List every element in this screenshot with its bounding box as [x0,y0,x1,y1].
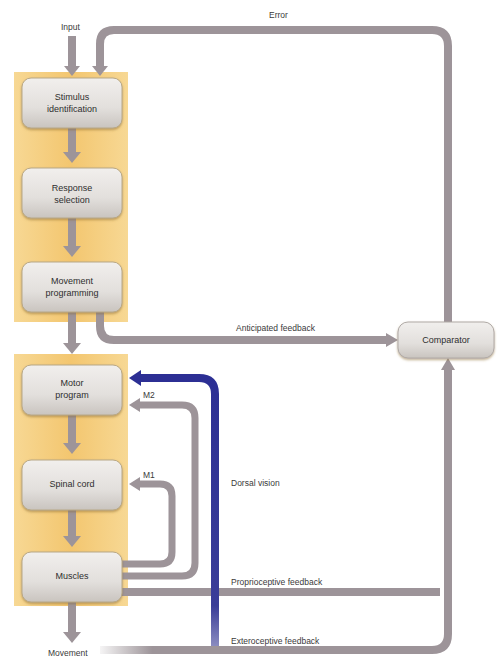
box-label: programming [45,288,98,298]
box-label: Muscles [55,571,89,581]
box-label: selection [54,195,90,205]
m1-arrow [122,477,172,564]
m2-label: M2 [143,390,155,400]
error-arrow [92,30,452,322]
input-label: Input [61,22,81,32]
box-label: Movement [51,276,94,286]
motor-control-diagram: Stimulus identification Response selecti… [0,0,502,668]
dorsal-vision-label: Dorsal vision [231,478,280,488]
box-label: Stimulus [55,92,90,102]
movement-output-arrow [63,602,81,643]
motor-program-box: Motor program [22,365,122,415]
comparator-box: Comparator [398,322,494,358]
spinal-cord-box: Spinal cord [22,460,122,510]
stimulus-identification-box: Stimulus identification [22,78,122,128]
movement-programming-box: Movement programming [22,262,122,312]
movement-label: Movement [48,648,88,658]
box-label: Spinal cord [49,479,94,489]
m1-label: M1 [143,470,155,480]
box-label: Comparator [422,335,470,345]
muscles-box: Muscles [22,552,122,602]
exteroceptive-feedback-label: Exteroceptive feedback [231,636,320,646]
response-selection-box: Response selection [22,168,122,218]
box-label: identification [47,104,97,114]
error-label: Error [269,10,288,20]
input-arrow [64,36,80,76]
box-label: Response [52,183,93,193]
anticipated-feedback-label: Anticipated feedback [236,323,316,333]
box-label: program [55,390,89,400]
proprioceptive-feedback-label: Proprioceptive feedback [231,577,323,587]
box-label: Motor [60,378,83,388]
